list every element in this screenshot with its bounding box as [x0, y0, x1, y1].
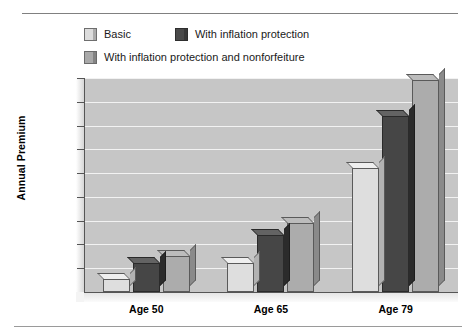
bar-side-face	[190, 244, 196, 286]
bottom-divider	[14, 326, 462, 327]
x-axis-line	[84, 292, 458, 293]
bar-front-face	[382, 116, 409, 292]
y-axis-tick	[77, 126, 84, 127]
bar-group	[84, 78, 209, 292]
y-axis-tick	[77, 78, 84, 79]
x-axis-label: Age 79	[333, 303, 458, 315]
legend-row-2: With inflation protection and nonforfeit…	[84, 47, 424, 67]
top-divider	[22, 13, 458, 14]
y-axis-tick	[77, 173, 84, 174]
bar-side-face	[409, 104, 415, 286]
chart-legend: Basic With inflation protection With inf…	[84, 24, 424, 67]
legend-label-nonforfeiture: With inflation protection and nonforfeit…	[104, 51, 305, 64]
legend-label-inflation: With inflation protection	[195, 28, 309, 41]
bar	[163, 256, 190, 292]
bar-front-face	[257, 235, 284, 292]
legend-swatch-basic-icon	[84, 28, 97, 41]
bar-side-face	[439, 68, 445, 286]
bar-front-face	[227, 263, 254, 292]
legend-row-1: Basic With inflation protection	[84, 24, 424, 44]
y-axis-title: Annual Premium	[15, 93, 27, 223]
chart-figure: Basic With inflation protection With inf…	[0, 0, 473, 335]
legend-item-basic: Basic	[84, 28, 131, 41]
y-axis-tick	[77, 102, 84, 103]
y-axis-tick	[77, 197, 84, 198]
bar-side-face	[314, 211, 320, 286]
bar	[257, 235, 284, 292]
y-axis-tick	[77, 244, 84, 245]
legend-label-basic: Basic	[104, 28, 131, 41]
bar-front-face	[133, 263, 160, 292]
legend-item-inflation: With inflation protection	[175, 28, 309, 41]
legend-item-nonforfeiture: With inflation protection and nonforfeit…	[84, 51, 305, 64]
x-axis-category-labels: Age 50Age 65Age 79	[84, 303, 458, 319]
bar	[287, 223, 314, 292]
bar	[352, 168, 379, 292]
bar	[103, 279, 130, 292]
bar	[133, 263, 160, 292]
bar	[227, 263, 254, 292]
plot-depth-wall	[76, 78, 84, 292]
bar-front-face	[103, 279, 130, 292]
bar-front-face	[287, 223, 314, 292]
y-axis-tick	[77, 149, 84, 150]
x-axis-label: Age 50	[84, 303, 209, 315]
bar-side-face	[284, 223, 290, 286]
bar	[412, 80, 439, 292]
bar-groups	[84, 78, 458, 292]
bar-front-face	[412, 80, 439, 292]
legend-swatch-nonforfeiture-icon	[84, 51, 97, 64]
legend-swatch-inflation-icon	[175, 28, 188, 41]
bar-group	[333, 78, 458, 292]
bar-group	[209, 78, 334, 292]
bar	[382, 116, 409, 292]
x-axis-label: Age 65	[209, 303, 334, 315]
bar-side-face	[379, 156, 385, 286]
y-axis-tick	[77, 268, 84, 269]
plot-floor	[76, 292, 458, 302]
bar-front-face	[163, 256, 190, 292]
bar-front-face	[352, 168, 379, 292]
y-axis-tick	[77, 221, 84, 222]
